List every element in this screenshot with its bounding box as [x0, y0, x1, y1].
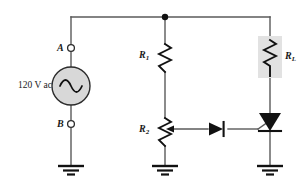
potentiometer-r2-label-base: R — [139, 123, 146, 134]
diode — [209, 122, 224, 136]
ground-middle — [152, 166, 178, 175]
ac-source-label: 120 V ac — [18, 81, 52, 91]
circuit-schematic: 120 V ac A B R1 R2 RL — [0, 0, 304, 187]
schematic-canvas — [0, 0, 304, 187]
ground-left — [58, 166, 84, 175]
resistor-rl-label-subscript: L — [292, 55, 296, 63]
terminal-a-label: A — [57, 43, 64, 53]
resistor-r1-label-subscript: 1 — [146, 54, 150, 62]
resistor-rl-label: RL — [285, 51, 296, 61]
potentiometer-r2 — [159, 118, 174, 146]
resistor-r1-label-base: R — [139, 49, 146, 60]
junction-dot-top — [162, 14, 168, 20]
potentiometer-r2-label: R2 — [139, 124, 149, 134]
ground-right — [257, 166, 283, 175]
resistor-r1 — [159, 44, 171, 72]
potentiometer-r2-label-subscript: 2 — [146, 128, 150, 136]
terminal-b-label: B — [57, 119, 64, 129]
resistor-rl-label-base: R — [285, 50, 292, 61]
ac-source — [52, 67, 90, 105]
terminal-b-node — [68, 121, 75, 128]
wiring — [71, 17, 270, 166]
scr — [259, 113, 281, 131]
terminal-a-node — [68, 45, 75, 52]
resistor-r1-label: R1 — [139, 50, 149, 60]
